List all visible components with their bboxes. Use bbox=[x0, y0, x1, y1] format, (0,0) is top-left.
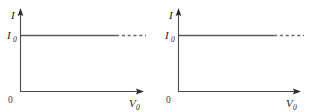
left-panel: I I 0 0 V 0 bbox=[0, 0, 156, 112]
x-axis-label-sub: 0 bbox=[136, 103, 140, 112]
y-tick-label-i0-main: I bbox=[164, 29, 170, 41]
right-panel-plot: I I 0 0 V 0 bbox=[156, 0, 312, 112]
y-tick-label-i0-main: I bbox=[6, 29, 12, 41]
figure-pair: I I 0 0 V 0 I bbox=[0, 0, 312, 112]
origin-label: 0 bbox=[8, 95, 13, 105]
x-axis-label-sub: 0 bbox=[293, 103, 297, 112]
origin-label: 0 bbox=[166, 95, 171, 105]
y-axis-label: I bbox=[168, 9, 174, 21]
y-tick-label-i0-sub: 0 bbox=[171, 35, 175, 44]
right-panel: I I 0 0 V 0 bbox=[156, 0, 312, 112]
y-axis-label: I bbox=[10, 9, 16, 21]
y-tick-label-i0-sub: 0 bbox=[13, 35, 17, 44]
left-panel-plot: I I 0 0 V 0 bbox=[0, 0, 156, 112]
